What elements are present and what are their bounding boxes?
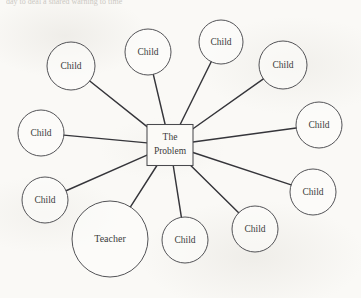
node-child-3[interactable]: Child [259,41,307,89]
edge-center-to-child-5 [193,153,291,185]
diagram-page: day to deal a shared warning to time Chi… [0,0,361,298]
page-header-cropped-text: day to deal a shared warning to time [6,0,346,9]
center-node-the-problem[interactable]: TheProblem [147,125,193,166]
center-label-line1: The [163,132,178,142]
node-label: Child [244,224,265,234]
edge-center-to-child-4 [193,128,296,142]
node-label: Child [302,187,323,197]
edge-center-to-child-0 [90,81,147,127]
edge-center-to-child-1 [153,74,165,124]
edge-center-to-child-6 [191,166,239,213]
node-label: Teacher [94,233,126,244]
node-child-4[interactable]: Child [296,102,342,148]
center-rectangle [147,125,193,166]
node-child-10[interactable]: Child [18,110,64,156]
node-label: Child [137,47,158,57]
edge-center-to-child-10 [64,135,147,143]
node-label: Child [272,60,293,70]
node-child-1[interactable]: Child [125,29,171,75]
edge-center-to-child-3 [193,79,263,129]
edge-center-to-child-9 [66,155,147,191]
node-child-2[interactable]: Child [199,20,243,64]
node-label: Child [308,120,329,130]
header-text-line: day to deal a shared warning to time [6,0,346,6]
center-node-group: TheProblem [147,125,193,166]
node-child-5[interactable]: Child [290,169,336,215]
node-child-6[interactable]: Child [232,206,278,252]
edge-center-to-child-7 [173,166,181,218]
node-label: Child [34,195,55,205]
node-label: Child [60,61,81,71]
edge-center-to-teacher-8 [130,166,156,207]
node-label: Child [210,37,231,47]
node-child-9[interactable]: Child [22,177,68,223]
node-child-7[interactable]: Child [162,217,208,263]
node-teacher-8[interactable]: Teacher [72,201,148,277]
problem-web-diagram: ChildChildChildChildChildChildChildChild… [0,0,361,298]
node-label: Child [174,235,195,245]
node-child-0[interactable]: Child [47,42,95,90]
center-label-line2: Problem [154,146,187,156]
edge-center-to-child-2 [180,62,211,125]
node-label: Child [30,128,51,138]
